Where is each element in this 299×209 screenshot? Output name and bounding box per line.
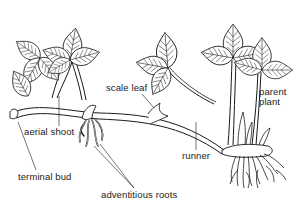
left-daughter-plant [6, 27, 101, 101]
diagram-canvas: scale leaf parent plant aerial shoot run… [0, 0, 299, 209]
parent-root-mass [230, 154, 286, 188]
middle-trifoliate-leaf [135, 32, 216, 104]
label-parent-plant-line2: plant [259, 97, 280, 107]
label-aerial-shoot: aerial shoot [24, 127, 74, 137]
label-terminal-bud: terminal bud [18, 172, 71, 182]
label-adventitious-roots: adventitious roots [101, 190, 177, 200]
adventitious-roots [79, 119, 102, 146]
terminal-bud [10, 109, 18, 119]
label-scale-leaf: scale leaf [106, 83, 147, 93]
label-runner: runner [182, 151, 210, 161]
